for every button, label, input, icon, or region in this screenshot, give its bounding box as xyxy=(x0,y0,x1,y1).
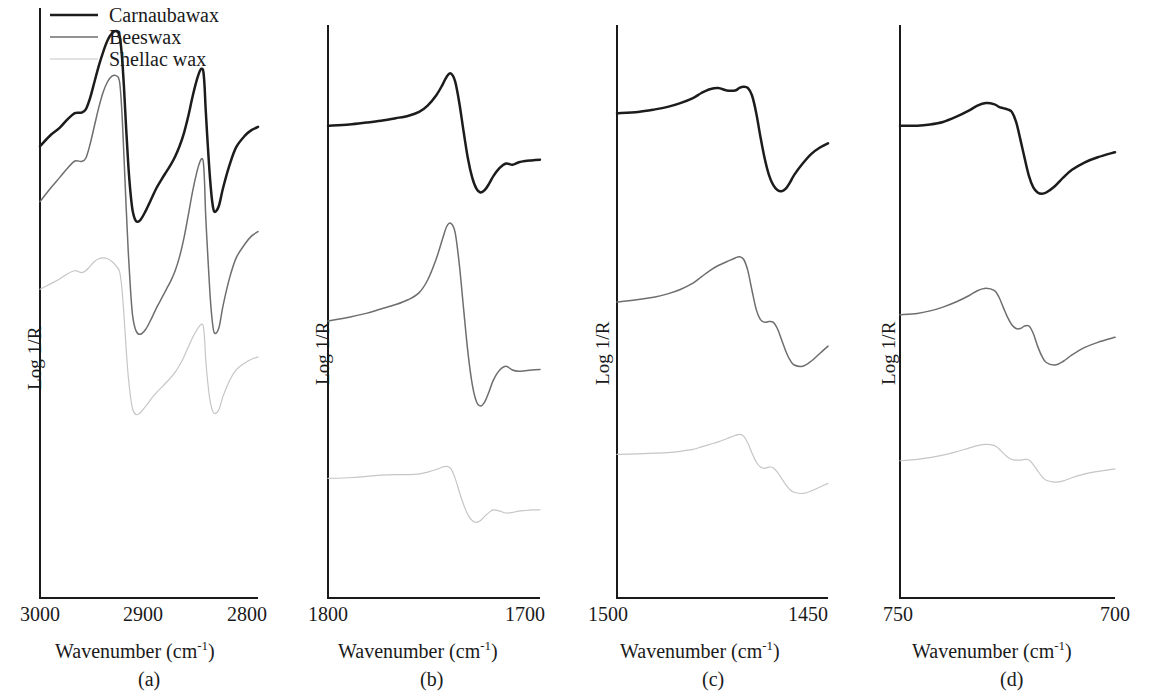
x-tick-d-0: 750 xyxy=(883,603,913,626)
spectrum-line-shellac-wax xyxy=(40,258,258,415)
spectrum-line-beeswax xyxy=(328,223,540,406)
x-tick-c-0: 1500 xyxy=(588,603,628,626)
plot-area-d xyxy=(860,0,1150,610)
x-tick-d-1: 700 xyxy=(1100,603,1130,626)
panel-caption-a: (a) xyxy=(138,668,160,691)
y-axis-label-d: Log 1/R xyxy=(878,321,900,385)
x-axis-title-sup: -1 xyxy=(762,638,773,653)
x-axis-title-text: Wavenumber (cm xyxy=(912,640,1054,662)
y-axis-label-a: Log 1/R xyxy=(24,326,46,390)
spectrum-line-shellac-wax xyxy=(900,444,1115,482)
x-tick-a-2: 2800 xyxy=(227,603,267,626)
x-axis-title-close: ) xyxy=(491,640,498,662)
x-axis-title-close: ) xyxy=(1065,640,1072,662)
y-axis-label-c: Log 1/R xyxy=(592,321,614,385)
spectrum-line-shellac-wax xyxy=(617,434,828,493)
panel-d: Log 1/R 750 700 Wavenumber (cm-1) (d) xyxy=(860,0,1150,693)
panel-caption-b: (b) xyxy=(420,668,443,691)
x-axis-title-c: Wavenumber (cm-1) xyxy=(620,638,780,663)
figure-root: Carnaubawax Beeswax Shellac wax Log 1/R … xyxy=(0,0,1150,693)
plot-area-a xyxy=(0,0,300,610)
x-axis-title-text: Wavenumber (cm xyxy=(620,640,762,662)
plot-area-b xyxy=(290,0,580,610)
panel-a: Log 1/R 3000 2900 2800 Wavenumber (cm-1)… xyxy=(0,0,300,693)
x-axis-title-d: Wavenumber (cm-1) xyxy=(912,638,1072,663)
x-axis-title-close: ) xyxy=(208,640,215,662)
x-tick-b-1: 1700 xyxy=(505,603,545,626)
spectrum-line-carnaubawax xyxy=(40,31,258,222)
panel-caption-c: (c) xyxy=(702,668,724,691)
spectrum-line-carnaubawax xyxy=(617,87,828,192)
panel-caption-d: (d) xyxy=(1000,668,1023,691)
spectrum-line-beeswax xyxy=(617,257,828,367)
x-axis-title-b: Wavenumber (cm-1) xyxy=(338,638,498,663)
x-axis-title-text: Wavenumber (cm xyxy=(338,640,480,662)
x-tick-a-0: 3000 xyxy=(20,603,60,626)
x-tick-c-1: 1450 xyxy=(788,603,828,626)
x-tick-a-1: 2900 xyxy=(123,603,163,626)
y-axis-label-b: Log 1/R xyxy=(312,321,334,385)
x-axis-title-text: Wavenumber (cm xyxy=(55,640,197,662)
spectrum-line-carnaubawax xyxy=(900,103,1115,194)
x-axis-title-sup: -1 xyxy=(197,638,208,653)
panel-b: Log 1/R 1800 1700 Wavenumber (cm-1) (b) xyxy=(290,0,580,693)
panel-c: Log 1/R 1500 1450 Wavenumber (cm-1) (c) xyxy=(580,0,870,693)
plot-area-c xyxy=(580,0,870,610)
spectrum-line-shellac-wax xyxy=(328,466,540,522)
x-axis-title-sup: -1 xyxy=(1054,638,1065,653)
x-axis-title-sup: -1 xyxy=(480,638,491,653)
spectrum-line-carnaubawax xyxy=(328,73,540,192)
x-axis-title-close: ) xyxy=(773,640,780,662)
x-axis-title-a: Wavenumber (cm-1) xyxy=(55,638,215,663)
spectrum-line-beeswax xyxy=(900,288,1115,365)
x-tick-b-0: 1800 xyxy=(308,603,348,626)
